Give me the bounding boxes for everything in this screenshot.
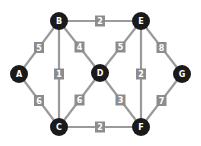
svg-text:6: 6 (77, 96, 83, 105)
edge-weight-E-G: 8 (157, 42, 167, 53)
node-E: E (132, 12, 150, 30)
svg-text:2: 2 (138, 70, 144, 79)
svg-text:5: 5 (36, 44, 42, 53)
svg-text:1: 1 (56, 70, 62, 79)
svg-text:C: C (56, 123, 62, 132)
svg-text:2: 2 (97, 17, 103, 26)
svg-text:E: E (138, 17, 143, 26)
weighted-graph: 562145286327 ABEDGCF (0, 0, 201, 146)
svg-text:4: 4 (77, 43, 83, 52)
svg-text:6: 6 (36, 97, 42, 106)
edge-weight-C-F: 2 (95, 122, 105, 133)
svg-text:F: F (138, 123, 143, 132)
edge-weight-D-F: 3 (116, 95, 126, 106)
svg-text:A: A (16, 70, 23, 79)
svg-text:2: 2 (97, 123, 103, 132)
node-A: A (10, 65, 28, 83)
node-C: C (50, 118, 68, 136)
node-B: B (50, 12, 68, 30)
node-F: F (132, 118, 150, 136)
svg-text:D: D (97, 69, 104, 78)
edge-weight-A-C: 6 (34, 95, 44, 106)
edge-weight-A-B: 5 (34, 42, 44, 53)
svg-text:5: 5 (118, 43, 124, 52)
nodes-layer: ABEDGCF (10, 12, 191, 136)
node-G: G (173, 65, 191, 83)
svg-text:3: 3 (118, 96, 124, 105)
edge-weight-B-E: 2 (95, 16, 105, 27)
svg-text:7: 7 (159, 97, 165, 106)
edge-weight-B-D: 4 (75, 42, 85, 53)
edge-weight-E-D: 5 (116, 42, 126, 53)
edge-weight-G-F: 7 (157, 95, 167, 106)
svg-text:B: B (56, 17, 62, 26)
node-D: D (91, 64, 109, 82)
svg-text:8: 8 (159, 44, 165, 53)
edge-weight-D-C: 6 (75, 95, 85, 106)
edge-weight-E-F: 2 (136, 69, 146, 80)
svg-text:G: G (179, 70, 186, 79)
edge-weight-B-C: 1 (54, 69, 64, 80)
